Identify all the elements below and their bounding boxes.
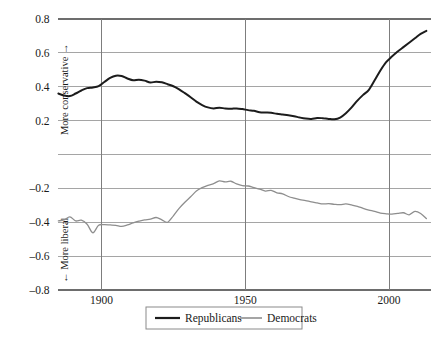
- x-tick-label: 1950: [234, 294, 257, 306]
- y-tick-label: –0.2: [28, 182, 49, 194]
- chart-figure: 0.80.60.40.2–0.2–0.4–0.6–0.8 19001950200…: [0, 0, 438, 343]
- lower-axis-caption: ← More liberal: [60, 217, 71, 282]
- y-tick-label: –0.6: [28, 250, 49, 262]
- y-tick-label: –0.8: [28, 284, 49, 296]
- y-tick-label: 0.6: [35, 47, 50, 59]
- x-tick-label: 1900: [90, 294, 113, 306]
- y-tick-label: 0.4: [35, 81, 50, 93]
- chart-legend[interactable]: Republicans Democrats: [146, 307, 317, 329]
- y-tick-label: 0.2: [35, 115, 50, 127]
- legend-label-republicans: Republicans: [185, 312, 242, 325]
- line-chart-svg: 0.80.60.40.2–0.2–0.4–0.6–0.8 19001950200…: [0, 0, 438, 343]
- y-tick-label: –0.4: [28, 216, 49, 228]
- legend-label-democrats: Democrats: [267, 312, 317, 324]
- x-tick-label: 2000: [378, 294, 401, 306]
- upper-axis-caption: More conservative →: [60, 44, 71, 136]
- y-tick-label: 0.8: [35, 13, 50, 25]
